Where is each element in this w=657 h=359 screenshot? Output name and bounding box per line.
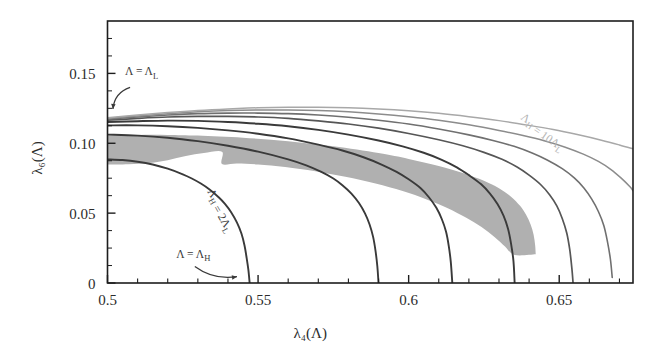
- ytick-label-2: 0.10: [69, 136, 95, 152]
- xtick-label-3: 0.65: [546, 292, 572, 308]
- lambda-L-annotation-arrow: [113, 87, 130, 109]
- lambda-H-2L-curve-label: ΛH = 2ΛL: [200, 186, 239, 235]
- x-axis-title: λ₄(Λ): [294, 325, 327, 342]
- lambda-H-annotation-arrow: [195, 267, 237, 278]
- ytick-label-0: 0: [88, 276, 96, 292]
- lambda-L-annotation: Λ = ΛL: [125, 65, 158, 80]
- lambda-H-annotation: Λ = ΛH: [176, 248, 210, 263]
- lambda-H-10L-curve-label: ΛH = 10ΛL: [515, 111, 568, 156]
- y-axis-title: λ₆(Λ): [29, 141, 46, 174]
- ytick-label-1: 0.05: [69, 206, 95, 222]
- plot-svg: 0.50.550.60.6500.050.100.15λ₄(Λ)λ₆(Λ)Λ =…: [0, 0, 657, 359]
- allowed-region-band: [108, 135, 536, 256]
- figure-container: 0.50.550.60.6500.050.100.15λ₄(Λ)λ₆(Λ)Λ =…: [0, 0, 657, 359]
- ytick-label-3: 0.15: [69, 66, 95, 82]
- xtick-label-2: 0.6: [399, 292, 418, 308]
- lambda-H-annotation-arrowhead: [232, 275, 237, 279]
- xtick-label-0: 0.5: [98, 292, 117, 308]
- xtick-label-1: 0.55: [245, 292, 271, 308]
